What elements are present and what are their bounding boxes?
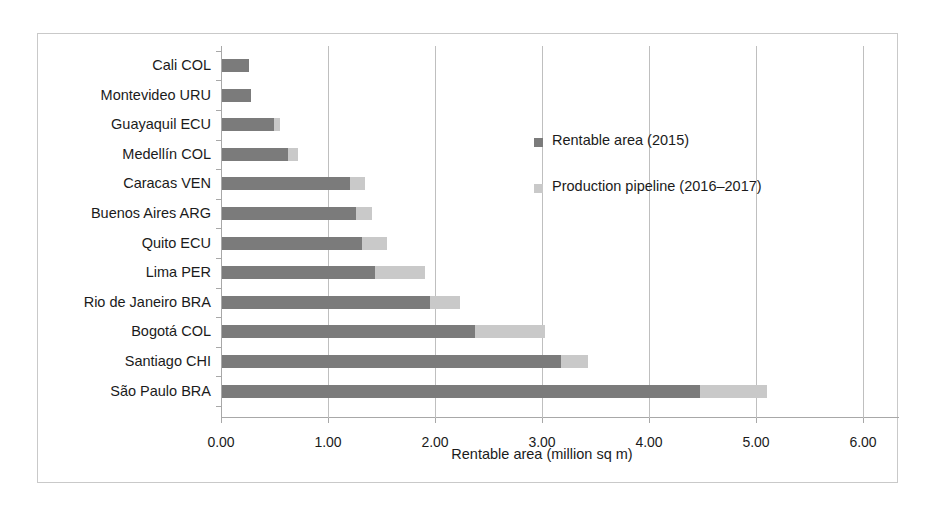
bar-segment-rentable [222,325,475,338]
category-label: São Paulo BRA [110,385,211,398]
gridline [649,46,650,418]
bar-segment-pipeline [350,177,365,190]
bar-segment-pipeline [356,207,372,220]
x-axis-title: Rentable area (million sq m) [221,446,863,462]
bar-segment-rentable [222,89,251,102]
gridline [756,46,757,418]
legend-label: Production pipeline (2016–2017) [552,178,762,194]
y-tick [216,169,221,170]
y-tick [216,317,221,318]
bar-segment-pipeline [430,296,460,309]
y-tick [216,110,221,111]
y-tick [216,80,221,81]
category-label: Montevideo URU [101,89,211,102]
bar-segment-pipeline [274,118,279,131]
bar-segment-rentable [222,59,249,72]
legend-item[interactable]: Production pipeline (2016–2017) [534,180,864,226]
bar-segment-rentable [222,118,274,131]
bar-segment-pipeline [700,385,766,398]
category-label: Santiago CHI [125,355,211,368]
category-label: Rio de Janeiro BRA [84,296,211,309]
x-tick [756,418,757,423]
bar-segment-rentable [222,296,430,309]
legend-swatch-icon [534,138,543,147]
category-label: Lima PER [146,266,211,279]
bar-segment-rentable [222,177,350,190]
bar-segment-rentable [222,266,375,279]
bar-segment-pipeline [362,237,387,250]
x-tick [328,418,329,423]
y-tick [216,376,221,377]
y-tick [216,228,221,229]
chart-legend: Rentable area (2015)Production pipeline … [534,134,864,226]
y-tick [216,347,221,348]
x-tick [863,418,864,423]
chart-figure: Cali COLMontevideo URUGuayaquil ECUMedel… [37,33,898,483]
plot-area: Cali COLMontevideo URUGuayaquil ECUMedel… [221,46,863,418]
bar-segment-pipeline [561,355,588,368]
gridline [863,46,864,418]
y-tick [216,51,221,52]
bar-segment-rentable [222,148,288,161]
category-label: Buenos Aires ARG [91,207,211,220]
category-label: Caracas VEN [123,177,211,190]
y-tick [216,199,221,200]
category-label: Guayaquil ECU [111,118,211,131]
y-tick [216,288,221,289]
bar-segment-rentable [222,355,561,368]
legend-item[interactable]: Rentable area (2015) [534,134,864,180]
x-tick [649,418,650,423]
bar-segment-rentable [222,237,362,250]
bar-segment-rentable [222,385,700,398]
legend-label: Rentable area (2015) [552,132,689,148]
x-tick [542,418,543,423]
x-tick [435,418,436,423]
y-tick [216,140,221,141]
category-label: Medellín COL [122,148,211,161]
bar-segment-pipeline [475,325,546,338]
y-tick [216,406,221,407]
bar-segment-pipeline [288,148,298,161]
y-tick [216,258,221,259]
category-label: Cali COL [152,59,211,72]
category-label: Bogotá COL [131,325,211,338]
bar-segment-rentable [222,207,356,220]
x-tick [221,418,222,423]
legend-swatch-icon [534,184,543,193]
category-label: Quito ECU [142,237,211,250]
bar-segment-pipeline [375,266,425,279]
x-axis-line [221,417,899,418]
